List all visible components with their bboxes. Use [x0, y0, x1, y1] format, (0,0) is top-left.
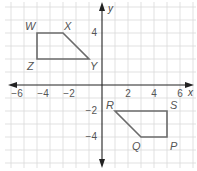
y-axis-down-arrow-icon	[99, 159, 105, 168]
vertex-label-x: X	[63, 20, 72, 32]
x-tick-label: −6	[11, 88, 23, 99]
y-tick-label: 4	[91, 27, 97, 38]
y-tick-label: −2	[86, 105, 98, 116]
vertex-label-w: W	[25, 20, 37, 32]
vertex-label-p: P	[170, 140, 178, 152]
vertex-label-z: Z	[26, 60, 35, 72]
x-tick-label: −2	[63, 88, 75, 99]
vertex-label-y: Y	[90, 60, 98, 72]
x-axis-label: x	[187, 87, 194, 98]
x-axis	[8, 82, 194, 88]
y-axis-up-arrow-icon	[99, 2, 105, 11]
y-axis-label: y	[107, 3, 114, 14]
x-tick-label: −4	[37, 88, 49, 99]
vertex-label-r: R	[106, 99, 114, 111]
coordinate-plane: x y −6 −4 −2 2 4 6 4 −2 −4 W X Y Z R S P…	[0, 0, 197, 171]
y-tick-label: −4	[86, 131, 98, 142]
x-tick-label: 4	[151, 88, 157, 99]
x-tick-label: 2	[125, 88, 131, 99]
vertex-label-q: Q	[132, 140, 141, 152]
vertex-label-s: S	[170, 99, 178, 111]
x-tick-label: 6	[177, 88, 183, 99]
